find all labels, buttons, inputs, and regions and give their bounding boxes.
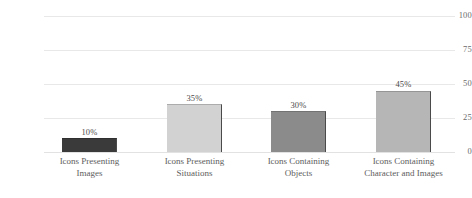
bar-value-icons-presenting-situations: 35% (149, 94, 240, 103)
gridline-75 (44, 50, 455, 51)
bar-icons-presenting-images[interactable] (62, 138, 117, 152)
category-label-line-1: Icons Presenting (30, 156, 149, 168)
bar-icons-containing-character-and-images[interactable] (376, 91, 431, 152)
bar-group-icons-presenting-images[interactable]: 10% Icons Presenting Images (62, 138, 117, 152)
category-label-line-1: Icons Presenting (135, 156, 254, 168)
bar-value-icons-presenting-images: 10% (44, 128, 135, 137)
category-label-icons-containing-objects: Icons Containing Objects (239, 156, 358, 179)
y-tick-100: 100 (434, 11, 472, 20)
plot-area: 100 75 50 25 0 10% Icons Presenting Imag… (0, 0, 472, 198)
y-tick-75: 75 (434, 45, 472, 54)
bar-value-icons-containing-character-and-images: 45% (358, 80, 449, 89)
y-tick-25: 25 (434, 113, 472, 122)
bar-chart: 100 75 50 25 0 10% Icons Presenting Imag… (0, 0, 472, 198)
category-label-line-2: Situations (135, 168, 254, 180)
gridline-100 (44, 16, 455, 17)
category-label-line-2: Character and Images (344, 168, 463, 180)
bar-group-icons-containing-objects[interactable]: 30% Icons Containing Objects (271, 111, 326, 152)
bar-value-icons-containing-objects: 30% (253, 101, 344, 110)
category-label-icons-containing-character-and-images: Icons Containing Character and Images (344, 156, 463, 179)
category-label-line-2: Images (30, 168, 149, 180)
bar-icons-containing-objects[interactable] (271, 111, 326, 152)
gridline-baseline (44, 152, 455, 153)
category-label-line-2: Objects (239, 168, 358, 180)
bar-icons-presenting-situations[interactable] (167, 104, 222, 152)
y-tick-0: 0 (434, 147, 472, 156)
category-label-line-1: Icons Containing (239, 156, 358, 168)
bar-group-icons-presenting-situations[interactable]: 35% Icons Presenting Situations (167, 104, 222, 152)
category-label-icons-presenting-images: Icons Presenting Images (30, 156, 149, 179)
bar-group-icons-containing-character-and-images[interactable]: 45% Icons Containing Character and Image… (376, 91, 431, 152)
category-label-line-1: Icons Containing (344, 156, 463, 168)
category-label-icons-presenting-situations: Icons Presenting Situations (135, 156, 254, 179)
